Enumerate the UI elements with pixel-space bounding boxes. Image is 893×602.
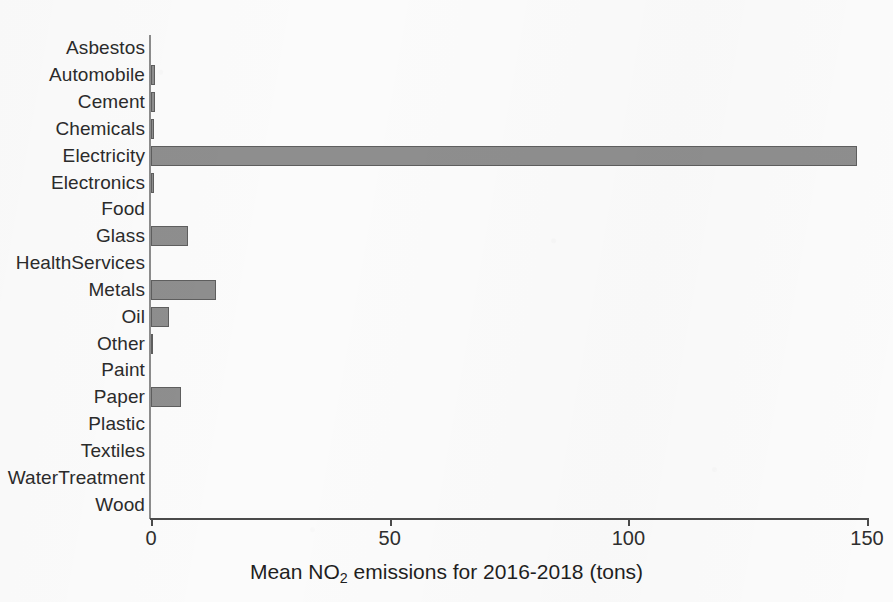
bar (151, 307, 169, 327)
x-tick-mark (151, 518, 153, 526)
bar (151, 65, 155, 85)
category-label: Other (97, 333, 145, 355)
bar-row: Paper (0, 384, 893, 411)
category-label: Chemicals (55, 118, 145, 140)
bar-row: Textiles (0, 438, 893, 465)
x-axis-line (150, 518, 867, 520)
bar-row: Other (0, 330, 893, 357)
bar-row: Metals (0, 277, 893, 304)
bar-row: Oil (0, 303, 893, 330)
category-label: Paper (94, 386, 145, 408)
bar (151, 280, 216, 300)
bar-row: Asbestos (0, 35, 893, 62)
category-label: Metals (88, 279, 145, 301)
x-tick-mark (390, 518, 392, 526)
x-tick-label: 0 (145, 527, 156, 550)
bar-row: Electronics (0, 169, 893, 196)
bar-row: WaterTreatment (0, 464, 893, 491)
category-label: Food (101, 198, 145, 220)
bar (151, 146, 857, 166)
category-label: Oil (121, 306, 145, 328)
bar-row: Plastic (0, 411, 893, 438)
x-axis-title: Mean NO2 emissions for 2016-2018 (tons) (0, 560, 893, 584)
x-axis-title-before: Mean NO (250, 560, 340, 583)
bar-row: Chemicals (0, 116, 893, 143)
bar-row: Food (0, 196, 893, 223)
category-label: Electronics (51, 172, 145, 194)
bar-row: Automobile (0, 62, 893, 89)
bar-row: Cement (0, 89, 893, 116)
x-tick-mark (867, 518, 869, 526)
bar (151, 92, 155, 112)
category-label: Textiles (81, 440, 145, 462)
x-tick-mark (628, 518, 630, 526)
bar (151, 334, 153, 354)
bar-row: Wood (0, 491, 893, 518)
bar (151, 226, 188, 246)
category-label: Wood (95, 494, 145, 516)
category-label: Plastic (88, 413, 145, 435)
bar-row: HealthServices (0, 250, 893, 277)
category-label: Electricity (63, 145, 145, 167)
bar (151, 387, 181, 407)
bar-row: Electricity (0, 142, 893, 169)
bar (151, 173, 154, 193)
bar-row: Glass (0, 223, 893, 250)
category-label: Glass (96, 225, 145, 247)
category-label: Automobile (49, 64, 145, 86)
x-tick-label: 50 (379, 527, 401, 550)
x-axis-title-subscript: 2 (340, 570, 348, 586)
category-label: Asbestos (66, 37, 145, 59)
category-label: Cement (78, 91, 145, 113)
bar (151, 119, 154, 139)
category-label: Paint (101, 359, 145, 381)
bar-chart: AsbestosAutomobileCementChemicalsElectri… (0, 0, 893, 602)
category-label: WaterTreatment (8, 467, 145, 489)
x-tick-label: 100 (612, 527, 645, 550)
x-axis-title-after: emissions for 2016-2018 (tons) (348, 560, 643, 583)
x-tick-label: 150 (850, 527, 883, 550)
bar-row: Paint (0, 357, 893, 384)
category-label: HealthServices (16, 252, 145, 274)
